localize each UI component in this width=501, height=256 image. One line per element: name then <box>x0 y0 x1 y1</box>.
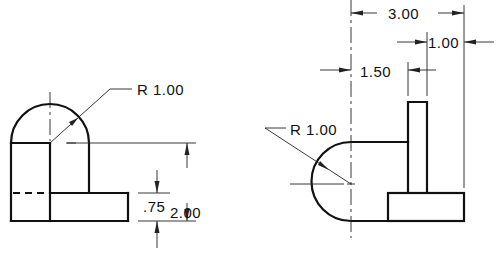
top-view-dim-300-arrow-left <box>351 11 363 16</box>
top-view-radius-arrowhead <box>318 161 329 170</box>
top-view-dim-300-arrow-right <box>452 11 464 16</box>
top-view-dim-100-arrow-right <box>464 40 476 45</box>
top-view-dim-100-arrow-left <box>415 40 427 45</box>
top-view-dim-150-arrow-left <box>339 68 351 73</box>
front-view-dim-75-arrow-top <box>155 181 160 193</box>
top-view-base-rect <box>388 193 464 221</box>
front-view-height-label: 2.00 <box>170 204 201 221</box>
top-view-dim-150-arrow-right <box>408 68 420 73</box>
top-view-rib-position-label: 1.50 <box>360 63 391 80</box>
front-view-radius-leader <box>50 89 132 143</box>
top-view-width-label: 3.00 <box>388 5 419 22</box>
front-view-radius-label: R 1.00 <box>137 81 184 98</box>
top-view-rib <box>408 102 427 193</box>
front-view: R 1.00 2.00 .75 <box>11 81 201 248</box>
technical-drawing: R 1.00 2.00 .75 R 1.00 <box>0 0 501 256</box>
front-view-dim-75-arrow-bottom <box>155 221 160 233</box>
top-view-radius-label: R 1.00 <box>290 121 337 138</box>
top-view-arc-outline <box>312 142 409 221</box>
top-view-rib-offset-label: 1.00 <box>428 34 459 51</box>
front-view-base-label: .75 <box>143 198 165 215</box>
front-view-dim-2-arrow-top <box>185 143 190 155</box>
top-view: R 1.00 3.00 1.00 1.50 <box>265 0 494 238</box>
